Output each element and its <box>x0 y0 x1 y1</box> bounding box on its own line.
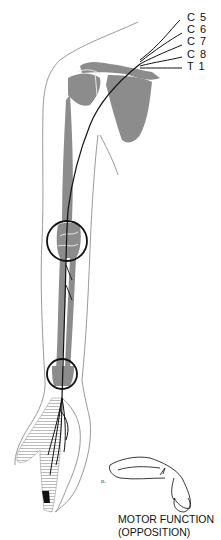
root-label-c5: C 5 <box>187 12 207 23</box>
root-label-c8: C 8 <box>187 49 207 60</box>
root-label-t1: T 1 <box>187 61 206 72</box>
inset-caption-line1: MOTOR FUNCTION <box>118 513 221 526</box>
median-nerve-diagram: ɒ. <box>0 0 221 540</box>
inset-caption-line2: (OPPOSITION) <box>118 526 221 539</box>
opposition-inset-hand <box>109 457 190 512</box>
nerve-roots <box>140 20 182 68</box>
root-label-c6: C 6 <box>187 24 207 35</box>
bones <box>52 62 160 386</box>
root-label-c7: C 7 <box>187 36 207 47</box>
sensory-area-hatch <box>17 398 62 512</box>
inset-annotation: ɒ. <box>101 478 106 484</box>
